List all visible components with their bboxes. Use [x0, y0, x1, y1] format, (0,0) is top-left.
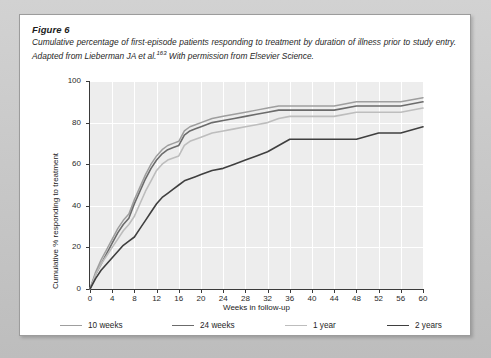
legend-label: 1 year: [313, 321, 336, 330]
legend-label: 2 years: [415, 321, 442, 330]
legend-swatch-icon: [172, 325, 194, 326]
chart: 020406080100 048121620242832364044485256…: [37, 63, 457, 318]
legend-swatch-icon: [387, 325, 409, 326]
series-line: [90, 127, 423, 289]
figure-description: Cumulative percentage of first-episode p…: [32, 37, 456, 61]
figure-card: Figure 6 Cumulative percentage of first-…: [19, 14, 471, 336]
figure-description-part2: With permission from Elsevier Science.: [166, 50, 313, 60]
legend-item[interactable]: 24 weeks: [172, 321, 235, 330]
legend-item[interactable]: 10 weeks: [60, 321, 123, 330]
page-background: Figure 6 Cumulative percentage of first-…: [0, 0, 491, 358]
figure-reference-superscript: 163: [156, 50, 166, 56]
figure-caption: Figure 6 Cumulative percentage of first-…: [32, 24, 456, 61]
series-line: [90, 102, 423, 289]
legend-item[interactable]: 2 years: [387, 321, 442, 330]
legend-swatch-icon: [285, 325, 307, 326]
legend-item[interactable]: 1 year: [285, 321, 336, 330]
series-lines: [37, 63, 457, 318]
legend-label: 10 weeks: [88, 321, 123, 330]
legend-swatch-icon: [60, 325, 82, 326]
series-line: [90, 98, 423, 289]
chart-legend: 10 weeks24 weeks1 year2 years: [42, 317, 462, 333]
legend-label: 24 weeks: [200, 321, 235, 330]
figure-label: Figure 6: [32, 24, 456, 36]
